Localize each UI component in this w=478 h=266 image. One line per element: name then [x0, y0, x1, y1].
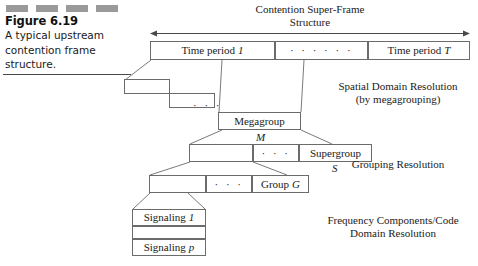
frequency-domain-resolution-label: Frequency Components/Code Domain Resolut… [310, 214, 476, 240]
decorative-bar [66, 5, 88, 12]
figure-container: Figure 6.19 A typical upstream contentio… [0, 0, 478, 266]
supergroup-label: Supergroup [310, 148, 361, 159]
signaling-row-first: Signaling1 [132, 209, 206, 226]
time-period-label: Time period [181, 45, 235, 56]
caption-line: contention frame [5, 44, 117, 58]
megagroup-label: Megagroup [234, 116, 285, 127]
decorative-bar [6, 5, 28, 12]
stepped-box-upper [124, 79, 170, 94]
group-index: G [289, 179, 300, 190]
caption-line: A typical upstream [5, 29, 117, 43]
ellipsis-label: · · · [215, 179, 244, 190]
group-cell-empty [149, 175, 206, 193]
figure-number: Figure 6.19 [5, 14, 117, 28]
time-period-cell-last: Time periodT [368, 41, 470, 60]
group-cell-label: GroupG [252, 175, 309, 193]
frequency-resolution-line2: Domain Resolution [310, 227, 476, 240]
signaling-label: Signaling [144, 212, 186, 223]
megagroup-box: Megagroup [218, 112, 301, 130]
spatial-resolution-line2: (by megagrouping) [322, 93, 474, 106]
caption-line: structure. [5, 58, 117, 72]
spatial-resolution-line1: Spatial Domain Resolution [322, 80, 474, 93]
decorative-bars [6, 5, 118, 12]
group-label: Group [261, 179, 289, 190]
superframe-title-line2: Structure [150, 16, 470, 29]
caption-divider [3, 74, 131, 75]
time-period-index: T [441, 45, 450, 56]
supergroup-cell-ellipsis: · · · [253, 144, 299, 162]
superframe-span-arrow [150, 29, 470, 38]
superframe-title-line1: Contention Super-Frame [150, 3, 470, 16]
frequency-resolution-line1: Frequency Components/Code [310, 214, 476, 227]
time-period-cell-first: Time period1 [150, 41, 275, 60]
superframe-title: Contention Super-Frame Structure [150, 3, 470, 28]
signaling-row-middle [132, 226, 206, 239]
spatial-domain-resolution-label: Spatial Domain Resolution (by megagroupi… [322, 80, 474, 106]
stepped-boxes-ellipsis: · · · [193, 99, 222, 111]
ellipsis-label: · · · · · · [290, 45, 353, 56]
time-period-cell-ellipsis: · · · · · · [275, 41, 368, 60]
decorative-bar [36, 5, 58, 12]
figure-caption: Figure 6.19 A typical upstream contentio… [5, 14, 117, 72]
time-period-index: 1 [235, 45, 244, 56]
megagroup-sublabel: M [256, 132, 265, 143]
grouping-resolution-label: Grouping Resolution [325, 158, 471, 171]
signaling-index: p [186, 242, 195, 253]
signaling-label: Signaling [144, 242, 186, 253]
ellipsis-label: · · · [262, 148, 291, 159]
time-period-label: Time period [388, 45, 442, 56]
decorative-bar [96, 5, 118, 12]
signaling-row-last: Signalingp [132, 239, 206, 256]
signaling-index: 1 [186, 212, 195, 223]
supergroup-cell-empty [189, 144, 253, 162]
group-cell-ellipsis: · · · [206, 175, 252, 193]
